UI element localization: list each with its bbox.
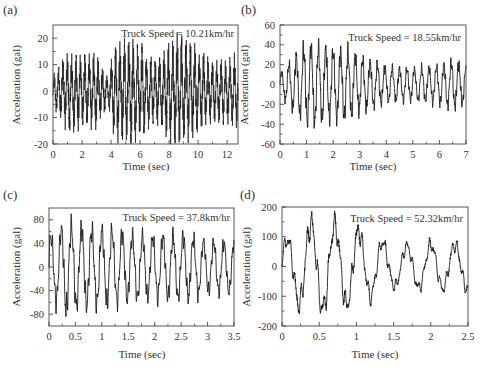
x-axis-title-a: Time (sec) — [123, 160, 170, 173]
svg-text:40: 40 — [34, 238, 45, 249]
svg-text:2: 2 — [428, 331, 433, 342]
svg-text:6: 6 — [137, 149, 142, 160]
svg-text:4: 4 — [108, 149, 114, 160]
svg-text:-60: -60 — [261, 139, 275, 150]
svg-text:-200: -200 — [258, 321, 277, 332]
speed-annotation-d: Truck Speed = 52.32km/hr — [350, 213, 463, 224]
svg-text:2: 2 — [152, 331, 157, 342]
svg-text:-40: -40 — [261, 119, 275, 130]
x-axis-title-d: Time (sec) — [352, 348, 399, 361]
svg-text:2: 2 — [79, 149, 84, 160]
svg-text:-20: -20 — [34, 139, 48, 150]
svg-text:-40: -40 — [30, 285, 44, 296]
svg-text:20: 20 — [38, 33, 49, 44]
svg-text:1: 1 — [354, 331, 359, 342]
y-axis-title-c: Acceleration (gal) — [10, 227, 23, 307]
svg-text:20: 20 — [265, 59, 276, 70]
panel-d: (d) 00.511.522.5-200-1000100200 Truck Sp… — [240, 187, 475, 361]
svg-text:200: 200 — [261, 202, 277, 213]
svg-text:0: 0 — [46, 331, 51, 342]
speed-annotation-a: Truck Speed = 10.21km/hr — [121, 28, 234, 39]
svg-text:7: 7 — [463, 149, 468, 160]
svg-text:1: 1 — [99, 331, 104, 342]
svg-text:0: 0 — [50, 149, 55, 160]
svg-text:6: 6 — [437, 149, 442, 160]
svg-text:-10: -10 — [34, 112, 48, 123]
svg-text:-20: -20 — [261, 99, 275, 110]
svg-text:8: 8 — [166, 149, 171, 160]
y-axis-title-a: Acceleration (gal) — [10, 45, 23, 125]
y-axis-title-d: Acceleration (gal) — [240, 227, 253, 307]
svg-text:10: 10 — [193, 149, 204, 160]
panel-label-b: (b) — [241, 2, 256, 17]
svg-text:0.5: 0.5 — [69, 331, 82, 342]
svg-text:12: 12 — [222, 149, 233, 160]
svg-text:0: 0 — [43, 86, 48, 97]
svg-text:2.5: 2.5 — [461, 331, 474, 342]
y-axis-title-b: Acceleration (gal) — [238, 45, 251, 125]
figure: (a) 024681012-20-1001020 Truck Speed = 1… — [0, 0, 483, 373]
svg-text:3.5: 3.5 — [227, 331, 240, 342]
speed-annotation-c: Truck Speed = 37.8km/hr — [122, 212, 230, 223]
signal-trace-c — [49, 214, 234, 317]
x-axis-title-c: Time (sec) — [119, 348, 166, 361]
svg-text:1.5: 1.5 — [122, 331, 135, 342]
signal-trace-a — [53, 32, 238, 144]
svg-text:0: 0 — [270, 79, 275, 90]
svg-text:40: 40 — [265, 39, 276, 50]
svg-text:10: 10 — [38, 59, 49, 70]
panel-a: (a) 024681012-20-1001020 Truck Speed = 1… — [3, 2, 238, 173]
svg-text:80: 80 — [34, 214, 45, 225]
svg-text:1.5: 1.5 — [387, 331, 400, 342]
panel-label-a: (a) — [3, 2, 17, 17]
svg-text:1: 1 — [304, 149, 309, 160]
svg-text:60: 60 — [265, 20, 276, 31]
svg-text:0: 0 — [277, 149, 282, 160]
svg-text:3: 3 — [205, 331, 210, 342]
svg-text:3: 3 — [357, 149, 362, 160]
svg-text:2.5: 2.5 — [175, 331, 188, 342]
svg-text:0: 0 — [39, 262, 44, 273]
svg-text:-80: -80 — [30, 309, 44, 320]
panel-b: (b) 01234567-60-40-200204060 Truck Speed… — [238, 2, 469, 173]
signal-trace-b — [280, 38, 466, 128]
speed-annotation-b: Truck Speed = 18.55km/hr — [348, 32, 461, 43]
svg-text:0.5: 0.5 — [313, 331, 326, 342]
svg-text:100: 100 — [261, 231, 277, 242]
svg-text:2: 2 — [331, 149, 336, 160]
signal-trace-d — [282, 211, 468, 314]
x-axis-title-b: Time (sec) — [350, 160, 397, 173]
svg-text:5: 5 — [410, 149, 415, 160]
svg-text:0: 0 — [272, 261, 277, 272]
panel-label-d: (d) — [240, 187, 255, 202]
panel-c: (c) 00.511.522.533.5-80-4004080 Truck Sp… — [3, 187, 241, 361]
svg-text:0: 0 — [279, 331, 284, 342]
panel-label-c: (c) — [3, 187, 17, 202]
svg-text:4: 4 — [384, 149, 390, 160]
svg-text:-100: -100 — [258, 291, 277, 302]
